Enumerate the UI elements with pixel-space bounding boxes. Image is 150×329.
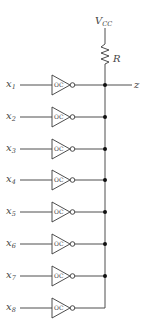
junction-dot-icon [103, 210, 107, 214]
gate-label: OC [54, 240, 64, 247]
input-label: x3 [6, 142, 16, 155]
gate-row: x6OC [6, 234, 107, 254]
input-label: x4 [6, 173, 16, 186]
gate-row: x3OC [6, 139, 107, 159]
junction-dot-icon [103, 115, 107, 119]
input-label: x8 [6, 301, 16, 314]
junction-dot-icon [103, 242, 107, 246]
gate-row: x5OC [6, 202, 107, 222]
resistor-label: R [112, 53, 121, 64]
junction-dot-icon [103, 83, 107, 87]
gate-rows: x1OCx2OCx3OCx4OCx5OCx6OCx7OCx8OC [6, 75, 107, 318]
gate-label: OC [54, 176, 64, 183]
resistor-icon [101, 44, 109, 64]
output-label: z [133, 79, 140, 90]
junction-dot-icon [103, 274, 107, 278]
input-label: x1 [6, 78, 16, 91]
input-label: x2 [6, 110, 16, 123]
inversion-bubble-icon [70, 178, 75, 183]
junction-dot-icon [103, 147, 107, 151]
gate-label: OC [54, 208, 64, 215]
gate-label: OC [54, 145, 64, 152]
gate-label: OC [54, 272, 64, 279]
inversion-bubble-icon [70, 115, 75, 120]
gate-row: x1OC [6, 75, 107, 95]
wired-and-circuit: VCC R z x1OCx2OCx3OCx4OCx5OCx6OCx7OCx8OC [0, 0, 150, 329]
junction-dot-icon [103, 178, 107, 182]
gate-row: x4OC [6, 170, 107, 190]
gate-label: OC [54, 304, 64, 311]
gate-row: x7OC [6, 266, 107, 286]
vcc-label: VCC [95, 15, 112, 28]
input-label: x5 [6, 205, 16, 218]
gate-label: OC [54, 81, 64, 88]
gate-row: x8OC [6, 298, 105, 318]
inversion-bubble-icon [70, 306, 75, 311]
input-label: x6 [6, 237, 16, 250]
gate-label: OC [54, 113, 64, 120]
inversion-bubble-icon [70, 210, 75, 215]
inversion-bubble-icon [70, 83, 75, 88]
inversion-bubble-icon [70, 242, 75, 247]
inversion-bubble-icon [70, 147, 75, 152]
gate-row: x2OC [6, 107, 107, 127]
inversion-bubble-icon [70, 274, 75, 279]
input-label: x7 [6, 269, 17, 282]
